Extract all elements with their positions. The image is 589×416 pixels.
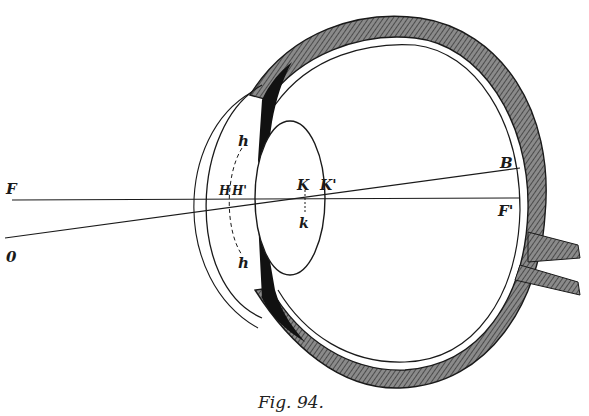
label-H: H	[218, 184, 231, 198]
label-h-bottom: h	[238, 254, 249, 272]
principal-plane	[229, 148, 242, 255]
label-K-prime: K'	[319, 177, 336, 193]
label-H-prime: H'	[231, 184, 247, 198]
label-K: K	[296, 177, 310, 193]
lens	[255, 121, 325, 275]
label-F-prime: F'	[497, 202, 513, 220]
label-h-top: h	[238, 132, 249, 150]
label-B: B	[499, 154, 513, 172]
cornea	[194, 85, 262, 328]
figure-caption: Fig. 94.	[257, 392, 324, 412]
label-O: 0	[6, 248, 17, 266]
label-F: F	[5, 180, 18, 198]
label-k: k	[299, 215, 309, 231]
eye-diagram: F 0 h h H H' K K' k B F' Fig. 94.	[0, 0, 589, 416]
